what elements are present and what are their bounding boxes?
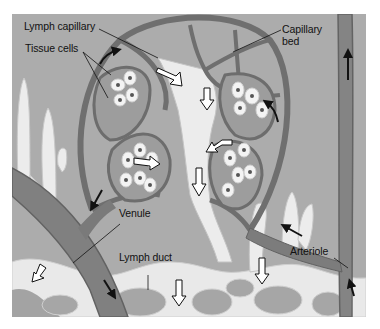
label-lymph-capillary: Lymph capillary	[24, 21, 95, 32]
label-tissue-cells: Tissue cells	[25, 43, 78, 54]
lymph-duct-network	[12, 259, 366, 317]
label-capillary-bed-line2: bed	[282, 36, 299, 47]
label-capillary-bed-line1: Capillary	[282, 24, 322, 35]
label-venule: Venule	[119, 208, 151, 219]
label-arteriole: Arteriole	[290, 246, 328, 257]
label-lymph-duct: Lymph duct	[119, 252, 172, 263]
